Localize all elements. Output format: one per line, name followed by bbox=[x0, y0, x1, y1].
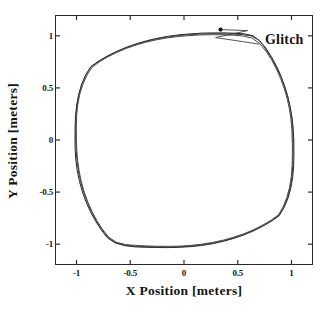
y-axis-title: Y Position [meters] bbox=[5, 16, 21, 266]
figure: -1-0.500.51 10.50-0.5-1 X Position [mete… bbox=[0, 0, 333, 314]
y-tick-label-0: 1 bbox=[49, 31, 53, 41]
y-tick-label-3: -0.5 bbox=[40, 187, 53, 197]
glitch-annotation-label: Glitch bbox=[265, 32, 304, 48]
x-axis-title: X Position [meters] bbox=[55, 283, 313, 299]
y-tick-label-2: 0 bbox=[49, 135, 53, 145]
y-tick-label-1: 0.5 bbox=[42, 83, 53, 93]
y-tick-label-4: -1 bbox=[46, 239, 53, 249]
